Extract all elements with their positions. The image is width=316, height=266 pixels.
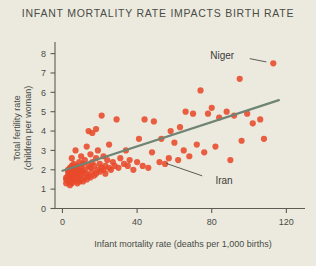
y-tick-label: 1 — [41, 184, 46, 194]
data-point — [102, 171, 108, 177]
data-point — [177, 124, 183, 130]
data-point — [190, 111, 196, 117]
y-axis-ticks: 012345678 — [41, 49, 55, 214]
data-point — [113, 116, 119, 122]
data-point — [69, 155, 75, 161]
annotation-label: Iran — [215, 175, 232, 186]
data-point — [93, 126, 99, 132]
y-tick-label: 5 — [41, 107, 46, 117]
x-tick-label: 40 — [132, 217, 142, 227]
data-point — [257, 116, 263, 122]
data-point — [72, 147, 78, 153]
annotation-label: Niger — [210, 50, 235, 61]
data-point — [224, 109, 230, 115]
data-point — [237, 76, 243, 82]
y-tick-label: 0 — [41, 204, 46, 214]
data-point — [99, 112, 105, 118]
data-point — [141, 116, 147, 122]
annotation-leader-line — [166, 163, 202, 175]
data-point — [238, 138, 244, 144]
data-point — [130, 167, 136, 173]
y-axis-title-line2: (children per woman) — [23, 86, 33, 171]
y-axis-title-line1: Total fertility rate — [12, 95, 22, 161]
data-point — [166, 155, 172, 161]
data-point — [212, 143, 218, 149]
data-point — [149, 149, 155, 155]
x-tick-label: 0 — [60, 217, 65, 227]
data-point — [115, 165, 121, 171]
x-axis-ticks: 04080120 — [60, 209, 294, 227]
chart-figure: INFANT MORTALITY RATE IMPACTS BIRTH RATE… — [0, 0, 316, 266]
data-point — [140, 163, 146, 169]
x-tick-label: 80 — [207, 217, 217, 227]
data-point — [151, 118, 157, 124]
data-point — [136, 136, 142, 142]
data-point — [181, 147, 187, 153]
data-point — [250, 120, 256, 126]
data-point — [84, 143, 90, 149]
data-point — [197, 87, 203, 93]
data-point — [261, 136, 267, 142]
scatter-points — [63, 60, 276, 188]
y-tick-label: 2 — [41, 165, 46, 175]
y-tick-label: 6 — [41, 88, 46, 98]
data-point — [201, 149, 207, 155]
data-point — [209, 105, 215, 111]
y-tick-label: 4 — [41, 126, 46, 136]
data-point — [227, 157, 233, 163]
data-point — [171, 140, 177, 146]
data-point — [106, 142, 112, 148]
y-tick-label: 8 — [41, 49, 46, 59]
data-point — [175, 157, 181, 163]
scatter-plot: 012345678 04080120 Total fertility rate … — [0, 0, 316, 266]
data-point — [145, 165, 151, 171]
x-axis-title: Infant mortality rate (deaths per 1,000 … — [94, 239, 272, 249]
y-tick-label: 7 — [41, 68, 46, 78]
data-point — [183, 109, 189, 115]
annotation-leader-line — [250, 59, 267, 62]
data-point — [156, 159, 162, 165]
data-point — [194, 142, 200, 148]
x-tick-label: 120 — [279, 217, 294, 227]
data-point — [125, 163, 131, 169]
data-point — [95, 147, 101, 153]
data-point — [134, 159, 140, 165]
data-point — [186, 153, 192, 159]
y-tick-label: 3 — [41, 146, 46, 156]
data-point — [270, 60, 276, 66]
data-point — [205, 111, 211, 117]
data-point — [168, 128, 174, 134]
data-point — [87, 151, 93, 157]
data-point — [117, 155, 123, 161]
data-point — [127, 157, 133, 163]
